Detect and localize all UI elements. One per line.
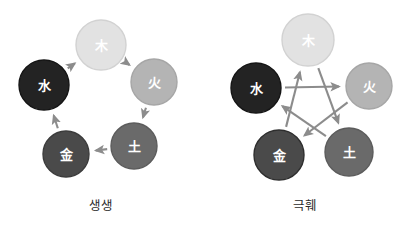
node-glyph-fire: 火: [148, 75, 162, 90]
node-glyph-earth: 土: [343, 145, 356, 160]
ke-cycle-diagram: 木火土金水: [204, 0, 407, 200]
element-node-fire[interactable]: 火: [346, 63, 392, 109]
element-node-water[interactable]: 水: [19, 60, 69, 110]
arrow-earth-to-metal: [96, 149, 107, 150]
arrow-wood-to-fire: [125, 62, 130, 65]
diagram-panel-ke: 木火土金水 극훼: [204, 0, 407, 244]
arrow-water-to-fire: [285, 87, 339, 88]
caption-sheng: 생생: [0, 198, 203, 214]
node-glyph-water: 水: [250, 81, 264, 96]
figure-canvas: 木火土金水 생생 木火土金水 극훼: [0, 0, 407, 244]
diagram-panel-sheng: 木火土金水 생생: [0, 0, 203, 244]
node-glyph-wood: 木: [94, 38, 109, 53]
node-layer: 木火土金水: [231, 14, 392, 180]
arrow-metal-to-wood: [286, 72, 300, 127]
element-node-earth[interactable]: 土: [325, 128, 373, 176]
arrow-fire-to-earth: [143, 108, 146, 118]
arrow-metal-to-water: [54, 115, 58, 128]
node-layer: 木火土金水: [19, 20, 177, 177]
node-glyph-wood: 木: [301, 33, 316, 48]
node-glyph-fire: 火: [363, 79, 377, 94]
node-glyph-metal: 金: [272, 148, 287, 163]
element-node-metal[interactable]: 金: [254, 130, 304, 180]
arrow-water-to-wood: [68, 63, 75, 68]
caption-ke: 극훼: [204, 198, 407, 214]
element-node-water[interactable]: 水: [231, 63, 281, 113]
element-node-wood[interactable]: 木: [282, 14, 334, 66]
arrow-layer: [282, 68, 347, 136]
element-node-earth[interactable]: 土: [111, 123, 157, 169]
element-node-metal[interactable]: 金: [43, 131, 89, 177]
element-node-wood[interactable]: 木: [76, 20, 126, 70]
node-glyph-water: 水: [38, 78, 52, 93]
node-glyph-earth: 土: [128, 139, 141, 154]
element-node-fire[interactable]: 火: [131, 59, 177, 105]
node-glyph-metal: 金: [59, 147, 74, 162]
arrow-wood-to-earth: [318, 68, 338, 123]
sheng-cycle-diagram: 木火土金水: [0, 0, 203, 200]
